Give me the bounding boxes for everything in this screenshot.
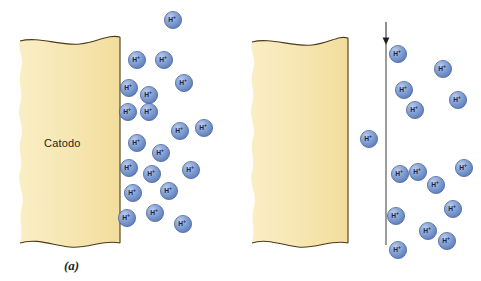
- panel-a-graphic: H+H+H+H+H+H+H+H+H+H+H+H+H+H+H+H+H+H+H+H+: [0, 0, 240, 281]
- hydrogen-ion: H+: [152, 144, 169, 161]
- hydrogen-ion: H+: [155, 51, 172, 68]
- panel-b: H+H+H+H+H+H+H+H+H+H+H+H+H+H+H+ Zona de e…: [240, 0, 481, 281]
- hydrogen-ion: H+: [174, 215, 191, 232]
- hydrogen-ion: H+: [143, 165, 160, 182]
- hydrogen-ion: H+: [182, 161, 199, 178]
- hydrogen-ion: H+: [438, 232, 455, 249]
- hydrogen-ion: H+: [120, 79, 137, 96]
- cathode-label-a: Catodo: [44, 137, 81, 149]
- hydrogen-ion: H+: [427, 176, 444, 193]
- hydrogen-ion: H+: [140, 103, 157, 120]
- hydrogen-ion: H+: [164, 11, 181, 28]
- hydrogen-ion: H+: [449, 91, 466, 108]
- hydrogen-ion: H+: [146, 204, 163, 221]
- hydrogen-ion: H+: [389, 241, 406, 258]
- panel-b-graphic: H+H+H+H+H+H+H+H+H+H+H+H+H+H+H+: [240, 0, 481, 281]
- figure-root: H+H+H+H+H+H+H+H+H+H+H+H+H+H+H+H+H+H+H+H+…: [0, 0, 481, 281]
- hydrogen-ion: H+: [160, 182, 177, 199]
- hydrogen-ion: H+: [455, 159, 472, 176]
- hydrogen-ion: H+: [395, 81, 412, 98]
- hydrogen-ion: H+: [118, 209, 135, 226]
- hydrogen-ion: H+: [171, 122, 188, 139]
- panel-a: H+H+H+H+H+H+H+H+H+H+H+H+H+H+H+H+H+H+H+H+…: [0, 0, 240, 281]
- hydrogen-ion: H+: [120, 159, 137, 176]
- hydrogen-ion: H+: [175, 74, 192, 91]
- hydrogen-ion: H+: [119, 103, 136, 120]
- hydrogen-ion: H+: [409, 163, 426, 180]
- ion-group-a: H+H+H+H+H+H+H+H+H+H+H+H+H+H+H+H+H+H+H+H+: [118, 11, 212, 232]
- hydrogen-ion: H+: [128, 134, 145, 151]
- hydrogen-ion: H+: [419, 222, 436, 239]
- hydrogen-ion: H+: [360, 130, 377, 147]
- hydrogen-ion: H+: [140, 86, 157, 103]
- cathode-block-b: [251, 37, 348, 247]
- hydrogen-ion: H+: [444, 200, 461, 217]
- hydrogen-ion: H+: [389, 45, 406, 62]
- panel-caption-a: (a): [64, 258, 79, 274]
- hydrogen-ion: H+: [434, 60, 451, 77]
- hydrogen-ion: H+: [128, 51, 145, 68]
- hydrogen-ion: H+: [406, 101, 423, 118]
- hydrogen-ion: H+: [391, 165, 408, 182]
- hydrogen-ion: H+: [124, 184, 141, 201]
- depletion-zone-arrow-icon: [383, 22, 390, 45]
- hydrogen-ion: H+: [387, 207, 404, 224]
- hydrogen-ion: H+: [195, 119, 212, 136]
- ion-group-b: H+H+H+H+H+H+H+H+H+H+H+H+H+H+H+: [360, 45, 472, 258]
